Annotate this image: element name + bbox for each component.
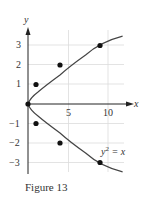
x-axis-label: x — [133, 98, 139, 109]
y-tick-neg2: −2 — [9, 137, 20, 148]
y-tick-neg3: −3 — [9, 157, 20, 168]
figure-caption: Figure 13 — [25, 181, 67, 193]
y-tick-1: 1 — [16, 78, 21, 89]
y-axis-label: y — [23, 14, 29, 25]
y-tick-neg1: −1 — [9, 118, 20, 129]
y-tick-3: 3 — [16, 39, 21, 50]
x-tick-5: 5 — [66, 107, 71, 118]
parabola-figure: y x 5 10 3 2 1 −1 −2 −3 y2 = x — [0, 0, 141, 200]
x-axis-arrow-icon — [126, 102, 134, 107]
y-axis-arrow-icon — [26, 27, 31, 35]
x-tick-10: 10 — [103, 107, 113, 118]
equation-label: y2 = x — [100, 145, 126, 157]
y-tick-2: 2 — [16, 59, 21, 70]
